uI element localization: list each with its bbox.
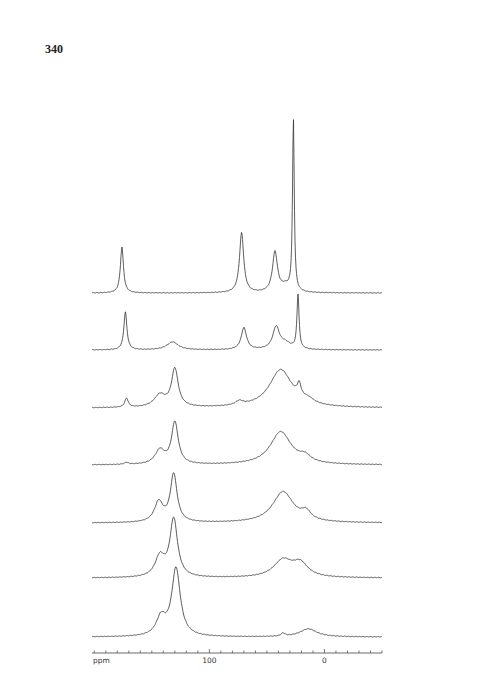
spectrum-7 bbox=[92, 567, 382, 637]
spectrum-4 bbox=[92, 421, 382, 465]
axis-ticks: 1000 bbox=[94, 649, 382, 665]
spectra-group bbox=[92, 120, 382, 637]
spectrum-2 bbox=[92, 294, 382, 350]
tick-label: 0 bbox=[322, 656, 327, 665]
axis-unit-label: ppm bbox=[93, 656, 110, 665]
ppm-axis: 1000 ppm bbox=[92, 649, 382, 665]
tick-label: 100 bbox=[202, 656, 217, 665]
stacked-nmr-spectra-figure: 1000 ppm bbox=[0, 0, 487, 694]
spectrum-5 bbox=[92, 473, 382, 523]
spectrum-1 bbox=[92, 120, 382, 293]
spectrum-6 bbox=[92, 517, 382, 578]
spectrum-3 bbox=[92, 367, 382, 407]
